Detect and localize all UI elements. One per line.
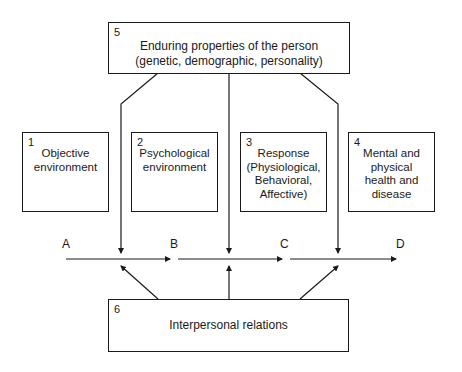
path-label-a: A bbox=[62, 237, 70, 251]
box-line: environment bbox=[23, 161, 108, 175]
box-subtitle: (genetic, demographic, personality) bbox=[109, 54, 349, 69]
box-interpersonal-relations: 6 Interpersonal relations bbox=[108, 299, 349, 352]
box-line: Affective) bbox=[241, 188, 326, 202]
box-objective-environment: 1 Objective environment bbox=[22, 132, 109, 212]
box-line: Response bbox=[241, 147, 326, 161]
box-title: Interpersonal relations bbox=[109, 319, 348, 333]
path-label-b: B bbox=[170, 237, 178, 251]
box-line: physical bbox=[349, 161, 434, 175]
box-health-and-disease: 4 Mental and physical health and disease bbox=[348, 132, 435, 212]
box-line: environment bbox=[132, 161, 217, 175]
box-line: health and bbox=[349, 174, 434, 188]
box-psychological-environment: 2 Psychological environment bbox=[131, 132, 218, 212]
box-line: Mental and bbox=[349, 147, 434, 161]
box-number: 6 bbox=[114, 303, 120, 315]
box-title: Enduring properties of the person bbox=[109, 39, 349, 54]
arrow-6-to-ab bbox=[121, 266, 158, 299]
box-line: Behavioral, bbox=[241, 174, 326, 188]
box-number: 5 bbox=[114, 26, 120, 38]
box-line: disease bbox=[349, 188, 434, 202]
arrow-6-to-cd bbox=[300, 266, 338, 299]
box-response: 3 Response (Physiological, Behavioral, A… bbox=[240, 132, 327, 212]
path-label-d: D bbox=[396, 237, 405, 251]
path-label-c: C bbox=[280, 237, 289, 251]
box-enduring-properties: 5 Enduring properties of the person (gen… bbox=[108, 22, 350, 74]
box-line: Psychological bbox=[132, 147, 217, 161]
box-line: (Physiological, bbox=[241, 161, 326, 175]
box-line: Objective bbox=[23, 147, 108, 161]
